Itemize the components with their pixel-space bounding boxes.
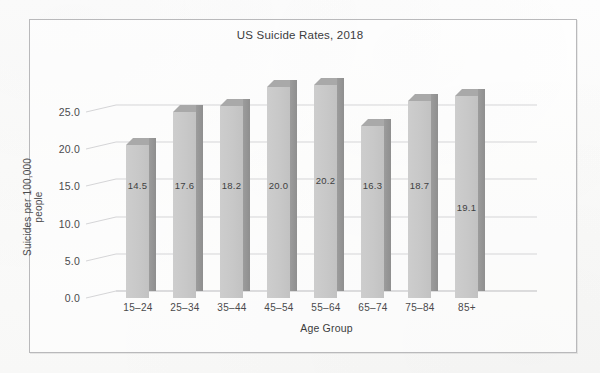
- bar-side-face-15-24: [149, 138, 156, 291]
- x-axis-title: Age Group: [116, 322, 537, 334]
- bar-front-face-55-64: [314, 85, 337, 298]
- bar-value-15-24: 14.5: [126, 180, 149, 191]
- bar-front-face-75-84: [408, 101, 431, 299]
- bar-value-75-84: 18.7: [408, 180, 431, 191]
- bar-front-face-85-plus: [455, 96, 478, 298]
- bar-side-face-25-34: [196, 105, 203, 291]
- bar-value-65-74: 16.3: [361, 180, 384, 191]
- bar-side-face-45-54: [290, 80, 297, 291]
- xtick-label-85-plus: 85+: [439, 302, 495, 313]
- bar-value-35-44: 18.2: [220, 180, 243, 191]
- bar-side-face-55-64: [337, 78, 344, 291]
- bar-value-25-34: 17.6: [173, 180, 196, 191]
- bar-side-face-75-84: [431, 94, 438, 292]
- bar-front-face-65-74: [361, 126, 384, 298]
- bar-value-55-64: 20.2: [314, 175, 337, 186]
- ytick-label-0: 0.0: [34, 292, 80, 304]
- bar-front-face-45-54: [267, 87, 290, 298]
- bar-side-face-35-44: [243, 99, 250, 291]
- ytick-label-25: 25.0: [34, 106, 80, 118]
- chart-title: US Suicide Rates, 2018: [0, 29, 600, 41]
- bar-side-face-65-74: [384, 119, 391, 291]
- chart-page: US Suicide Rates, 2018 0.0 5.0 10.0 15.0…: [0, 0, 600, 373]
- bar-side-face-85-plus: [478, 89, 485, 291]
- y-axis-title: Suicides per 100,000 people: [22, 147, 44, 267]
- bar-front-face-25-34: [173, 112, 196, 298]
- bar-front-face-15-24: [126, 145, 149, 298]
- bar-front-face-35-44: [220, 106, 243, 298]
- bar-value-45-54: 20.0: [267, 180, 290, 191]
- bar-value-85-plus: 19.1: [455, 202, 478, 213]
